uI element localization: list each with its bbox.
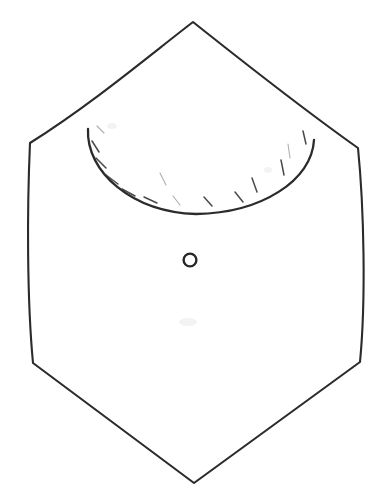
hatch-mark-7	[160, 173, 166, 185]
hatch-mark-9	[204, 197, 212, 206]
button-placement-circle	[184, 254, 197, 267]
hatch-mark-14	[303, 131, 306, 144]
drawing-canvas	[0, 0, 378, 502]
hatch-mark-6	[144, 197, 157, 203]
hatch-mark-10	[235, 192, 243, 202]
hexagonal-panel-outline	[28, 22, 364, 483]
paper-smudges	[107, 123, 272, 326]
hatch-mark-2	[92, 141, 99, 152]
neckline-arc	[88, 129, 314, 214]
pattern-drawing	[0, 0, 378, 502]
paper-smudge-neck	[107, 123, 117, 129]
paper-smudge-right	[264, 167, 272, 173]
hatch-mark-11	[252, 178, 257, 192]
hatch-mark-1	[97, 126, 104, 133]
hatch-mark-8	[173, 196, 180, 205]
hatch-mark-12	[281, 160, 284, 175]
hatch-mark-13	[288, 144, 290, 158]
paper-smudge-center	[179, 318, 197, 326]
